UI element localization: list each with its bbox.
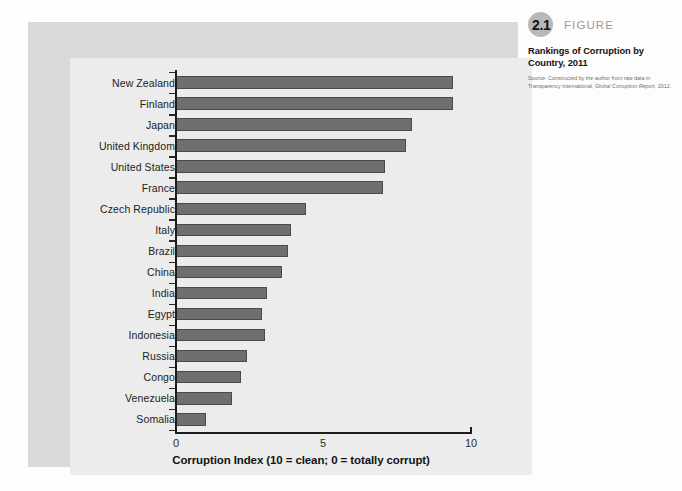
- bar-track: [176, 219, 516, 240]
- bar-category-label: New Zealand: [25, 77, 175, 89]
- y-axis-tick: [169, 304, 175, 305]
- y-axis-tick: [169, 240, 175, 241]
- bar-category-label: Congo: [25, 371, 175, 383]
- x-tick-label-10: 10: [465, 437, 477, 449]
- y-axis-tick: [169, 114, 175, 115]
- bar-row: India: [70, 282, 532, 303]
- figure-outer-frame: New ZealandFinlandJapanUnited KingdomUni…: [28, 22, 518, 467]
- bar-track: [176, 72, 516, 93]
- bar-category-label: China: [25, 266, 175, 278]
- bar: [176, 160, 385, 173]
- bar: [176, 392, 232, 405]
- bar-row: France: [70, 177, 532, 198]
- figure-word-label: FIGURE: [564, 19, 614, 31]
- bar-category-label: Italy: [25, 224, 175, 236]
- bar: [176, 97, 453, 110]
- bar: [176, 76, 453, 89]
- bar-row: Czech Republic: [70, 198, 532, 219]
- y-axis-tick: [169, 325, 175, 326]
- bar-row: Russia: [70, 346, 532, 367]
- bar: [176, 350, 247, 363]
- bar: [176, 245, 288, 258]
- bar-row: United Kingdom: [70, 135, 532, 156]
- y-axis-tick: [169, 135, 175, 136]
- bar-category-label: India: [25, 287, 175, 299]
- bar-track: [176, 388, 516, 409]
- y-axis-tick: [169, 346, 175, 347]
- bar: [176, 308, 262, 321]
- bar: [176, 224, 291, 237]
- x-tick-label-5: 5: [320, 437, 326, 449]
- bar-track: [176, 325, 516, 346]
- bar: [176, 118, 412, 131]
- bar-track: [176, 198, 516, 219]
- figure-page: New ZealandFinlandJapanUnited KingdomUni…: [0, 0, 682, 491]
- bar-category-label: Finland: [25, 98, 175, 110]
- bar-track: [176, 367, 516, 388]
- bar-row: Indonesia: [70, 325, 532, 346]
- figure-source-italic: Global Corruption Report: [595, 83, 655, 89]
- bar-chart: New ZealandFinlandJapanUnited KingdomUni…: [70, 58, 532, 475]
- y-axis-tick: [169, 262, 175, 263]
- bar-track: [176, 282, 516, 303]
- x-axis-line: [175, 432, 471, 434]
- y-axis-tick: [169, 367, 175, 368]
- bar-row: Italy: [70, 219, 532, 240]
- y-axis-tick: [169, 430, 175, 431]
- bar: [176, 413, 206, 426]
- bar-row: United States: [70, 156, 532, 177]
- figure-number: 2.1: [532, 17, 551, 33]
- bar-category-label: Indonesia: [25, 329, 175, 341]
- bar: [176, 287, 267, 300]
- bar-row: Brazil: [70, 240, 532, 261]
- figure-badge: 2.1 FIGURE: [528, 12, 676, 38]
- bar-category-label: Egypt: [25, 308, 175, 320]
- bar: [176, 266, 282, 279]
- bar-track: [176, 135, 516, 156]
- bar-category-label: Venezuela: [25, 392, 175, 404]
- x-axis-cap-right: [470, 427, 472, 434]
- bar: [176, 139, 406, 152]
- bar-track: [176, 177, 516, 198]
- x-axis-cap-left: [175, 427, 177, 434]
- chart-panel: New ZealandFinlandJapanUnited KingdomUni…: [70, 58, 532, 475]
- bar: [176, 371, 241, 384]
- bar-row: Venezuela: [70, 388, 532, 409]
- x-axis-title: Corruption Index (10 = clean; 0 = totall…: [70, 454, 532, 466]
- bar-category-label: United States: [25, 161, 175, 173]
- figure-source-note: Source: Constructed by the author from r…: [528, 74, 676, 90]
- bar-row: China: [70, 261, 532, 282]
- bar-track: [176, 261, 516, 282]
- figure-source-suffix: , 2012.: [655, 83, 672, 89]
- y-axis-tick: [169, 93, 175, 94]
- bar-row: Congo: [70, 367, 532, 388]
- bar-category-label: Russia: [25, 350, 175, 362]
- bar-row: Japan: [70, 114, 532, 135]
- y-axis-tick: [169, 156, 175, 157]
- figure-caption-block: 2.1 FIGURE Rankings of Corruption by Cou…: [528, 12, 676, 90]
- bar-row: New Zealand: [70, 72, 532, 93]
- bar-track: [176, 156, 516, 177]
- y-axis-tick: [169, 72, 175, 73]
- bar-track: [176, 346, 516, 367]
- bar-row: Finland: [70, 93, 532, 114]
- bar: [176, 203, 306, 216]
- bar-category-label: Brazil: [25, 245, 175, 257]
- y-axis-tick: [169, 198, 175, 199]
- bar: [176, 181, 383, 194]
- bar-row: Somalia: [70, 409, 532, 430]
- y-axis-line: [175, 70, 177, 432]
- y-axis-tick: [169, 177, 175, 178]
- bar-category-label: United Kingdom: [25, 140, 175, 152]
- y-axis-tick: [169, 219, 175, 220]
- bar-row: Egypt: [70, 304, 532, 325]
- x-tick-label-0: 0: [173, 437, 179, 449]
- bar-category-label: Somalia: [25, 413, 175, 425]
- y-axis-tick: [169, 388, 175, 389]
- bar-track: [176, 93, 516, 114]
- y-axis-tick: [169, 283, 175, 284]
- bar-track: [176, 240, 516, 261]
- bar-series: New ZealandFinlandJapanUnited KingdomUni…: [70, 72, 532, 430]
- bar-category-label: Czech Republic: [25, 203, 175, 215]
- figure-title: Rankings of Corruption by Country, 2011: [528, 46, 676, 69]
